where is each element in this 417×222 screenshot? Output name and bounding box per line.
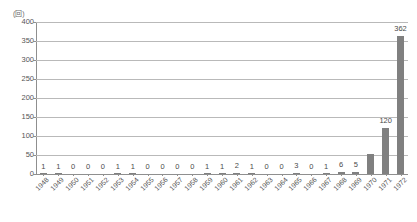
gridline: [36, 60, 408, 61]
x-axis-tick-labels: 1948194919501951195219531954195519561957…: [36, 176, 408, 222]
y-axis-tick-labels: 050100150200250300350400: [0, 0, 34, 222]
bar-value-label: 120: [376, 117, 396, 125]
plot-area: 1100011000011210030165120362: [36, 22, 408, 174]
gridline: [36, 117, 408, 118]
y-axis-tick-label: 300: [4, 56, 34, 64]
y-axis-tick-label: 0: [4, 170, 34, 178]
gridline: [36, 136, 408, 137]
y-axis-tick-label: 50: [4, 151, 34, 159]
y-axis-tick-label: 350: [4, 37, 34, 45]
gridline: [36, 22, 408, 23]
gridline: [36, 155, 408, 156]
bar: [367, 154, 374, 174]
y-axis-tick-label: 400: [4, 18, 34, 26]
bar-chart: (回) 050100150200250300350400 11000110000…: [0, 0, 417, 222]
gridline: [36, 79, 408, 80]
bar-value-label: 5: [346, 161, 366, 169]
gridline: [36, 98, 408, 99]
y-axis-tick-label: 250: [4, 75, 34, 83]
bar: [382, 128, 389, 174]
bar-value-label: 362: [391, 25, 411, 33]
bar: [397, 36, 404, 174]
y-axis-tick-label: 150: [4, 113, 34, 121]
y-axis-tick-label: 200: [4, 94, 34, 102]
y-axis-tick-label: 100: [4, 132, 34, 140]
gridline: [36, 41, 408, 42]
